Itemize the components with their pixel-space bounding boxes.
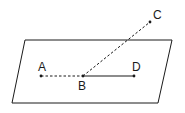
point-b xyxy=(82,75,85,78)
geometry-diagram: A B C D xyxy=(0,0,185,113)
label-c: C xyxy=(153,8,162,22)
label-a: A xyxy=(38,60,46,74)
label-d: D xyxy=(132,60,141,74)
label-b: B xyxy=(78,79,86,93)
point-c xyxy=(149,21,152,24)
plane-parallelogram xyxy=(12,40,172,103)
point-d xyxy=(133,75,136,78)
point-a xyxy=(40,75,43,78)
